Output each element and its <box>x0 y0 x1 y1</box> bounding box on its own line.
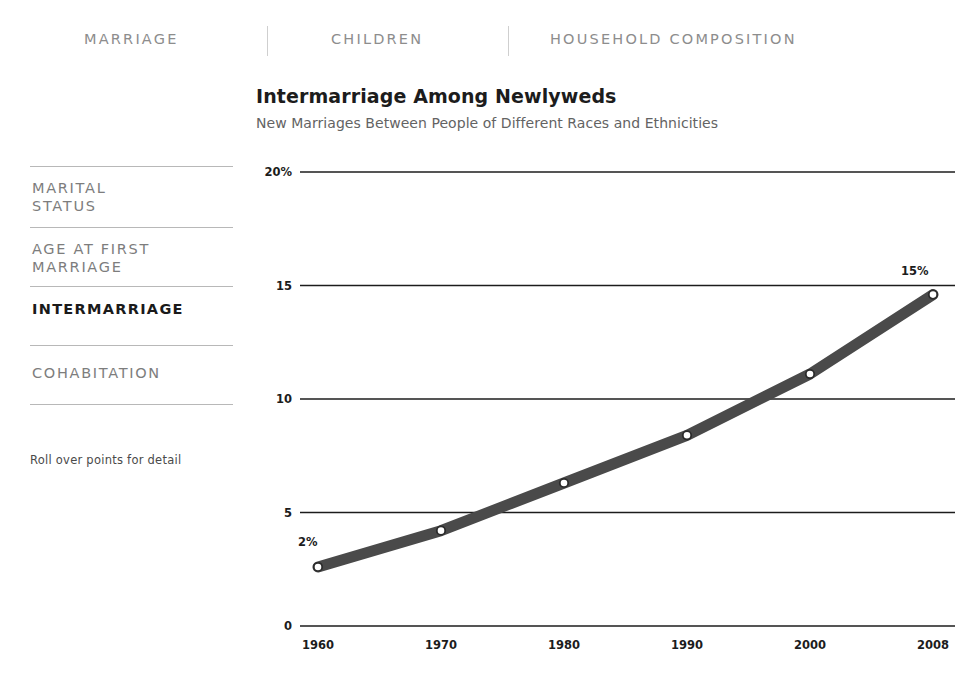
sidebar-item-label-line1: INTERMARRIAGE <box>32 300 233 318</box>
chart-x-tick-label: 1980 <box>529 638 599 652</box>
chart-gridlines <box>300 172 955 626</box>
chart-y-tick-label: 5 <box>252 506 292 520</box>
chart-data-point-2008[interactable] <box>929 290 937 298</box>
sidebar-item-label-line1: MARITAL <box>32 179 233 197</box>
line-chart: 05101520% 196019701980199020002008 2%15% <box>256 160 961 660</box>
chart-data-point-1960[interactable] <box>314 563 322 571</box>
nav-item-children[interactable]: CHILDREN <box>331 31 423 47</box>
chart-x-tick-label: 1960 <box>283 638 353 652</box>
chart-point-annotation: 2% <box>298 535 318 549</box>
chart-plot-area <box>256 160 961 660</box>
sidebar-item-label-line1: COHABITATION <box>32 364 233 382</box>
nav-item-marriage[interactable]: MARRIAGE <box>84 31 179 47</box>
nav-item-household-composition[interactable]: HOUSEHOLD COMPOSITION <box>550 31 797 47</box>
chart-data-point-2000[interactable] <box>806 370 814 378</box>
chart-subtitle: New Marriages Between People of Differen… <box>256 115 718 131</box>
chart-data-markers[interactable] <box>314 290 937 571</box>
chart-x-tick-label: 1970 <box>406 638 476 652</box>
top-nav: MARRIAGE CHILDREN HOUSEHOLD COMPOSITION <box>0 0 974 74</box>
sidebar-item-intermarriage[interactable]: INTERMARRIAGE <box>30 287 233 345</box>
chart-data-point-1970[interactable] <box>437 526 445 534</box>
sidebar-item-marital-status[interactable]: MARITAL STATUS <box>30 167 233 227</box>
chart-y-tick-label: 15 <box>252 279 292 293</box>
sidebar-divider <box>30 404 233 405</box>
chart-series-line <box>318 295 933 567</box>
sidebar-item-age-at-first-marriage[interactable]: AGE AT FIRST MARRIAGE <box>30 228 233 286</box>
chart-y-tick-label: 0 <box>252 619 292 633</box>
chart-y-tick-label: 20% <box>252 165 292 179</box>
chart-data-point-1990[interactable] <box>683 431 691 439</box>
chart-x-tick-label: 1990 <box>652 638 722 652</box>
chart-x-tick-label: 2008 <box>898 638 968 652</box>
sidebar-item-label-line2: STATUS <box>32 197 233 215</box>
chart-y-tick-label: 10 <box>252 392 292 406</box>
chart-title: Intermarriage Among Newlyweds <box>256 85 617 107</box>
nav-divider <box>508 26 509 56</box>
chart-data-point-1980[interactable] <box>560 479 568 487</box>
chart-point-annotation: 15% <box>901 264 929 278</box>
chart-x-tick-label: 2000 <box>775 638 845 652</box>
sidebar-hint-text: Roll over points for detail <box>30 453 181 467</box>
sidebar: MARITAL STATUS AGE AT FIRST MARRIAGE INT… <box>30 166 233 405</box>
sidebar-item-cohabitation[interactable]: COHABITATION <box>30 346 233 404</box>
nav-divider <box>267 26 268 56</box>
sidebar-item-label-line2: MARRIAGE <box>32 258 233 276</box>
sidebar-item-label-line1: AGE AT FIRST <box>32 240 233 258</box>
